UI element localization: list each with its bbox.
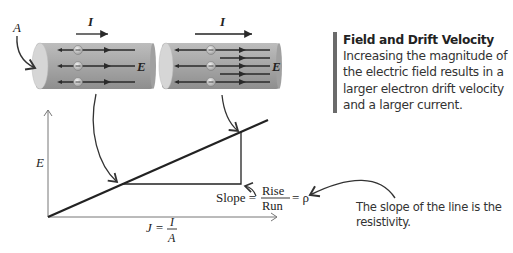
current-label-right: I	[219, 14, 226, 29]
slope-label: Slope =	[216, 190, 256, 205]
slope-numerator: Rise	[262, 184, 285, 198]
slope-equals-rho: = ρ	[292, 190, 309, 205]
conductor-cylinder-high-field	[159, 43, 282, 89]
x-axis-label: J =	[146, 220, 164, 235]
callout-title: Field and Drift Velocity	[343, 32, 513, 48]
field-label-right: E	[271, 59, 281, 74]
electron-icon	[207, 46, 216, 87]
pointer-arrow-icon	[93, 94, 117, 182]
electron-icon	[74, 46, 83, 87]
y-axis-label: E	[35, 155, 44, 170]
area-label: A	[12, 20, 21, 35]
slope-note: The slope of the line is the resistivity…	[356, 200, 506, 230]
current-label-left: I	[87, 14, 94, 29]
pointer-arrow-icon	[222, 95, 238, 131]
x-axis-label-denominator: A	[167, 231, 176, 245]
callout-field-drift-velocity: Field and Drift Velocity Increasing the …	[333, 32, 513, 113]
field-label-left: E	[136, 59, 146, 74]
callout-body: Increasing the magnitude of the electric…	[343, 48, 513, 113]
slope-denominator: Run	[262, 199, 284, 213]
note-pointer-arrow-icon	[310, 180, 395, 198]
